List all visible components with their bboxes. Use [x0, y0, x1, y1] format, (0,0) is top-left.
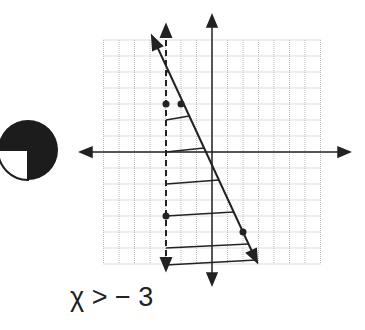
x-axis — [80, 147, 350, 157]
inequality-caption: χ > − 3 — [70, 282, 153, 313]
solid-boundary-line — [152, 36, 257, 262]
graph-canvas — [0, 0, 365, 330]
three-quarter-circle-icon — [0, 120, 58, 180]
dashed-boundary-line — [161, 25, 171, 270]
